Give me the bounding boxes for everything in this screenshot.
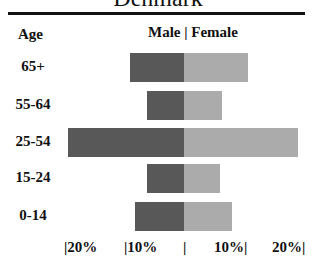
male-bar	[68, 128, 184, 157]
female-bar	[184, 53, 248, 82]
age-label: 25-54	[10, 133, 56, 150]
female-bar	[184, 202, 232, 231]
age-label: 15-24	[10, 169, 56, 186]
tick-female-10: 10%|	[214, 239, 247, 256]
sex-header: Male | Female	[148, 24, 238, 41]
tick-male-20: |20%	[64, 239, 97, 256]
female-bar	[184, 164, 220, 193]
tick-female-20: 20%|	[272, 239, 305, 256]
female-bar	[184, 91, 222, 120]
age-header: Age	[18, 26, 43, 43]
tick-zero: |	[183, 239, 186, 256]
age-label: 55-64	[10, 96, 56, 113]
tick-male-10: |10%	[124, 239, 157, 256]
male-bar	[135, 202, 184, 231]
age-label: 65+	[10, 58, 56, 75]
male-bar	[130, 53, 184, 82]
age-label: 0-14	[10, 207, 56, 224]
male-bar	[147, 91, 184, 120]
title-rule	[8, 12, 305, 15]
male-bar	[147, 164, 184, 193]
female-bar	[184, 128, 298, 157]
chart-title: Denmark	[0, 0, 316, 10]
